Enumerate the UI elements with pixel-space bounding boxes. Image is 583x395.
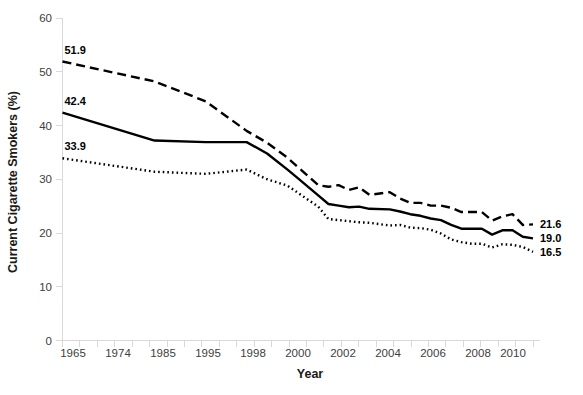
end-value-label-female: 16.5 (540, 246, 561, 258)
chart-plot-area: 0102030405060 19651974198519951998200020… (0, 0, 583, 395)
y-axis-title: Current Cigarette Smokers (%) (6, 91, 20, 273)
y-tick-label: 0 (46, 335, 52, 347)
end-value-label-overall: 19.0 (540, 232, 561, 244)
x-tick-label: 2006 (420, 347, 446, 359)
y-tick-marks (56, 18, 63, 341)
y-tick-label: 20 (39, 227, 52, 239)
series-group (63, 62, 534, 252)
x-tick-label: 2010 (500, 347, 526, 359)
x-tick-label: 1974 (105, 347, 131, 359)
y-tick-label: 50 (39, 66, 52, 78)
y-tick-label: 30 (39, 173, 52, 185)
y-tick-label: 10 (39, 281, 52, 293)
x-tick-label: 1998 (240, 347, 266, 359)
y-tick-label: 60 (39, 12, 52, 24)
series-line-overall (63, 113, 534, 239)
series-line-female (63, 158, 534, 252)
x-axis-title: Year (297, 367, 324, 381)
y-tick-label: 40 (39, 120, 52, 132)
series-line-male (63, 62, 534, 225)
x-tick-labels: 1965197419851995199820002002200420062008… (60, 347, 526, 359)
start-value-label-overall: 42.4 (65, 95, 87, 107)
chart-figure: 0102030405060 19651974198519951998200020… (0, 0, 583, 395)
end-value-label-male: 21.6 (540, 218, 561, 230)
x-tick-label: 2008 (465, 347, 491, 359)
x-tick-label: 2000 (285, 347, 311, 359)
x-tick-label: 1965 (60, 347, 86, 359)
x-tick-label: 1985 (150, 347, 176, 359)
x-tick-label: 2002 (330, 347, 356, 359)
series-value-labels: 51.921.642.419.033.916.5 (65, 44, 562, 258)
start-value-label-male: 51.9 (65, 44, 86, 56)
start-value-label-female: 33.9 (65, 140, 86, 152)
x-tick-label: 2004 (375, 347, 401, 359)
y-tick-labels: 0102030405060 (39, 12, 52, 347)
x-tick-label: 1995 (195, 347, 221, 359)
